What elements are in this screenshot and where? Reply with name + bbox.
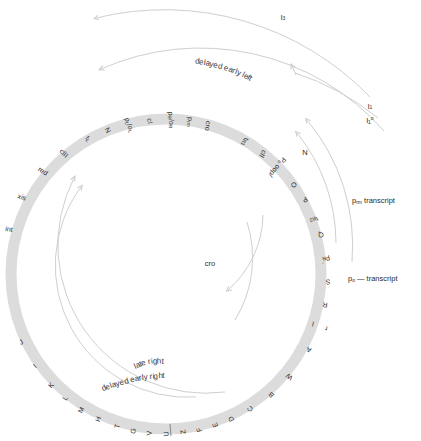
- arc-end-l1o-label: l1o: [366, 115, 373, 124]
- ring-label-cI: cI: [146, 117, 154, 124]
- arc-end-l3-label: l3: [281, 13, 285, 22]
- ring-label-R: R: [322, 301, 328, 308]
- cro-arc-outer: [235, 222, 253, 320]
- late-right-arc: [55, 187, 196, 397]
- l3-arc: [96, 10, 370, 97]
- ring-label-prm: prm: [186, 117, 194, 127]
- side-label-prm-transcript: prm transcript: [352, 196, 395, 205]
- arc-end-l1-label: l1: [368, 102, 372, 111]
- ring-label-pR-oR: pR/oR: [167, 111, 176, 129]
- ring-label-G: G: [129, 427, 137, 433]
- ring-label-S: S: [325, 279, 330, 286]
- l1o-arc: [295, 73, 378, 118]
- ring-label-U: U: [162, 431, 169, 437]
- cro-arc: [228, 215, 263, 290]
- inner-label-N-transcript-label: N: [302, 148, 307, 157]
- ring-label-V: V: [146, 431, 153, 436]
- inner-label-cro-transcript-label: cro: [205, 259, 215, 268]
- side-label-po-transcript: po — transcript: [348, 274, 397, 283]
